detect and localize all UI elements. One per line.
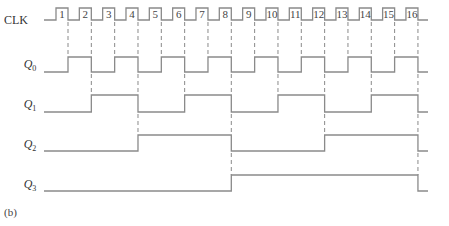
q2-line	[44, 135, 428, 151]
pulse-number: 5	[153, 8, 159, 20]
q1-line	[44, 95, 428, 112]
q3-label: Q3	[24, 177, 37, 193]
pulse-number: 16	[406, 8, 418, 20]
signal-labels: Q0Q1Q2Q3	[24, 57, 37, 193]
q1-label: Q1	[24, 97, 37, 113]
pulse-number: 4	[129, 8, 135, 20]
pulse-number: 1	[59, 8, 65, 20]
pulse-number: 11	[290, 8, 301, 20]
pulse-numbers: 12345678910111213141516	[59, 8, 418, 20]
q3-line	[44, 175, 428, 191]
pulse-number: 14	[360, 8, 372, 20]
pulse-number: 8	[223, 8, 229, 20]
timing-diagram: CLK 12345678910111213141516 Q0Q1Q2Q3 (b)	[0, 0, 449, 226]
pulse-number: 15	[383, 8, 395, 20]
edge-guides	[68, 22, 418, 175]
pulse-number: 6	[176, 8, 182, 20]
pulse-number: 10	[266, 8, 278, 20]
q2-label: Q2	[24, 137, 37, 153]
output-waveforms	[44, 57, 428, 191]
pulse-number: 12	[313, 8, 324, 20]
pulse-number: 3	[106, 8, 112, 20]
clk-label: CLK	[4, 13, 28, 27]
pulse-number: 7	[199, 8, 205, 20]
pulse-number: 9	[246, 8, 252, 20]
pulse-number: 2	[83, 8, 89, 20]
figure-caption: (b)	[4, 206, 17, 219]
q0-label: Q0	[24, 57, 37, 73]
q0-line	[44, 57, 428, 72]
pulse-number: 13	[336, 8, 348, 20]
